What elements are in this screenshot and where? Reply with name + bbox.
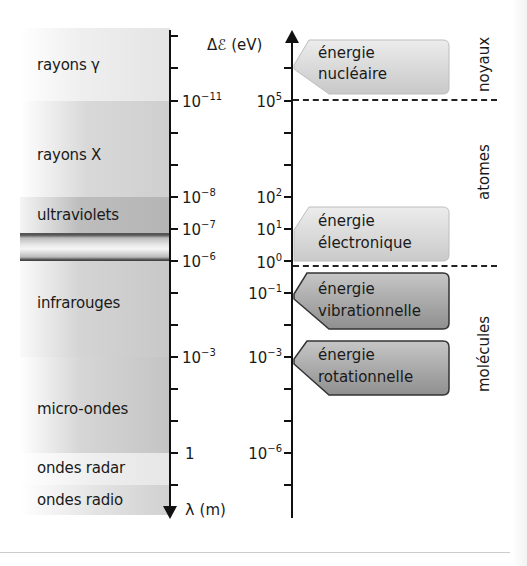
right-tick [284, 324, 291, 326]
domain-label-molecules: molécules [475, 316, 493, 392]
left-tick [171, 420, 178, 422]
right-tick-label: 101 [257, 219, 282, 239]
energy-box-vibrational-line1: énergie [318, 280, 375, 298]
right-tick [284, 388, 291, 390]
right-tick-label: 105 [257, 91, 282, 111]
left-tick [171, 260, 178, 262]
right-tick [284, 67, 291, 69]
left-tick [171, 292, 178, 294]
right-tick-label: 102 [257, 187, 282, 207]
electromagnetic-spectrum-diagram: rayons γ rayons X ultraviolets infraroug… [0, 0, 527, 566]
left-tick [171, 132, 178, 134]
energy-axis-label: Δℰ (eV) [207, 36, 262, 54]
band-label-xray: rayons X [37, 146, 101, 164]
right-tick [284, 292, 291, 294]
domain-label-atomes: atomes [475, 144, 493, 200]
left-tick [171, 356, 178, 358]
left-tick [171, 164, 178, 166]
left-tick [171, 484, 178, 486]
left-tick-label: 10−3 [182, 347, 216, 367]
bottom-rule [0, 552, 510, 553]
left-tick [171, 196, 178, 198]
right-tick [284, 484, 291, 486]
left-tick [171, 100, 178, 102]
energy-box-vibrational-line2: vibrationnelle [318, 302, 421, 320]
band-label-radar: ondes radar [37, 459, 125, 477]
right-tick-label: 10−3 [248, 347, 282, 367]
band-label-gamma: rayons γ [37, 56, 100, 74]
left-tick [171, 324, 178, 326]
band-label-uv: ultraviolets [37, 206, 119, 224]
right-tick [284, 356, 291, 358]
right-tick-label: 100 [257, 252, 282, 272]
right-tick [284, 452, 291, 454]
wavelength-axis-label: λ (m) [185, 500, 226, 519]
left-tick-label: 1 [185, 443, 195, 463]
separator-noyaux-atomes [293, 99, 497, 101]
left-tick-label: 10−7 [182, 219, 216, 239]
left-tick-label: 10−6 [182, 251, 216, 271]
energy-box-electronic-line2: électronique [318, 234, 412, 252]
band-visible [20, 233, 170, 261]
energy-box-nuclear-line1: énergie [318, 44, 375, 62]
right-tick-label: 10−1 [248, 283, 282, 303]
right-tick [284, 100, 291, 102]
wavelength-axis [169, 30, 171, 510]
page-edge-shade [512, 0, 527, 566]
right-tick [284, 132, 291, 134]
left-tick [171, 388, 178, 390]
left-tick [171, 452, 178, 454]
right-tick-label: 10−6 [248, 443, 282, 463]
right-tick [284, 196, 291, 198]
right-tick [284, 164, 291, 166]
band-label-radio: ondes radio [37, 491, 123, 509]
energy-box-rotational-line2: rotationnelle [318, 368, 413, 386]
left-tick-label: 10−11 [182, 91, 222, 111]
band-label-infrared: infrarouges [37, 294, 120, 312]
right-tick [284, 420, 291, 422]
energy-box-rotational-line1: énergie [318, 346, 375, 364]
energy-box-electronic-line1: énergie [318, 212, 375, 230]
left-tick-label: 10−8 [182, 187, 216, 207]
left-tick [171, 67, 178, 69]
separator-atomes-molecules [293, 265, 497, 267]
left-tick [171, 35, 178, 37]
arrow-down-icon [163, 506, 177, 520]
energy-box-nuclear-line2: nucléaire [318, 65, 387, 83]
band-label-microwave: micro-ondes [37, 400, 128, 418]
right-tick [284, 260, 291, 262]
left-tick [171, 228, 178, 230]
right-tick [284, 228, 291, 230]
domain-label-noyaux: noyaux [475, 37, 493, 92]
